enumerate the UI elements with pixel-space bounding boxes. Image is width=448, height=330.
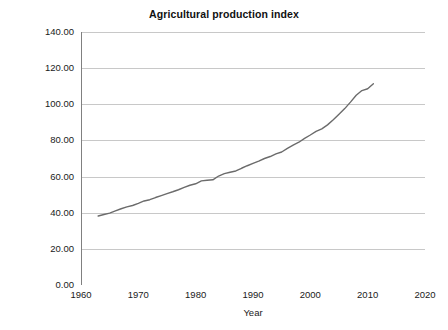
- page-title: Agricultural production index: [0, 8, 448, 20]
- bottom-caption: [14, 324, 434, 330]
- y-tick-label: 120.00: [14, 63, 74, 73]
- y-tick-label: 20.00: [14, 244, 74, 254]
- x-axis-title: Year: [81, 307, 425, 318]
- x-tick-label: 1970: [113, 289, 163, 300]
- y-tick-label: 80.00: [14, 135, 74, 145]
- x-tick-label: 2010: [343, 289, 393, 300]
- x-tick-label: 1990: [228, 289, 278, 300]
- y-tick-label: 40.00: [14, 208, 74, 218]
- x-tick-label: 1980: [171, 289, 221, 300]
- y-tick-label: 100.00: [14, 99, 74, 109]
- x-tick-label: 2020: [400, 289, 448, 300]
- plot-area: [81, 32, 425, 285]
- line-chart-svg: [81, 32, 425, 285]
- x-tick-label: 1960: [56, 289, 106, 300]
- gridlines: [81, 33, 425, 286]
- data-series-line: [98, 84, 373, 216]
- y-tick-label: 60.00: [14, 172, 74, 182]
- axis-ticks: [81, 33, 425, 286]
- x-tick-label: 2000: [285, 289, 335, 300]
- y-tick-label: 140.00: [14, 27, 74, 37]
